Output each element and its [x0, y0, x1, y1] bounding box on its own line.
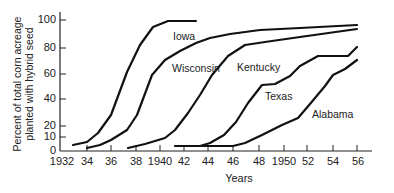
y-axis-title: Percent of total corn acreage planted wi…: [11, 0, 35, 169]
x-tick-label: 1940: [148, 155, 172, 167]
y-tick-label: 80: [44, 41, 56, 53]
x-tick-label: 38: [130, 155, 142, 167]
x-tick-label: 44: [202, 155, 214, 167]
x-tick-label: 36: [105, 155, 117, 167]
series-label-iowa: Iowa: [173, 30, 195, 42]
x-tick-label: 34: [81, 155, 93, 167]
y-tick-label: 60: [44, 67, 56, 79]
series-label-kentucky: Kentucky: [237, 61, 280, 73]
series-wisconsin: [87, 25, 357, 148]
series-label-texas: Texas: [265, 90, 292, 102]
y-tick-label: 10: [44, 130, 56, 142]
series-label-alabama: Alabama: [312, 108, 353, 120]
x-tick-label: 48: [253, 155, 265, 167]
y-tick-label: 40: [44, 92, 56, 104]
x-tick-label: 42: [178, 155, 190, 167]
y-axis-title-line1: Percent of total corn acreage: [11, 0, 23, 169]
x-tick-label: 1932: [50, 155, 74, 167]
x-tick-label: 54: [327, 155, 339, 167]
series-label-wisconsin: Wisconsin: [172, 62, 220, 74]
x-axis-title: Years: [225, 172, 253, 184]
x-tick-label: 46: [227, 155, 239, 167]
y-axis-title-line2: planted with hybrid seed: [23, 0, 35, 169]
y-tick-label: 100: [38, 13, 56, 25]
x-tick-label: 56: [352, 155, 364, 167]
x-tick-label: 52: [302, 155, 314, 167]
x-tick-label: 1950: [272, 155, 296, 167]
y-ticks: [60, 20, 66, 137]
